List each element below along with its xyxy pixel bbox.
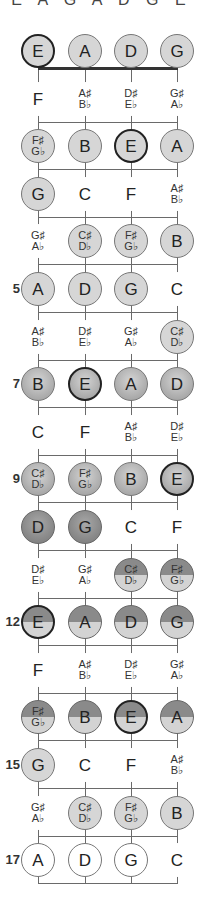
note-marker: G♯A♭: [21, 224, 55, 258]
fret-line: [38, 550, 178, 551]
note-label: A: [125, 376, 136, 393]
note-flat-label: G♭: [31, 146, 45, 157]
note-label: C: [79, 757, 91, 774]
note-label: G: [170, 614, 183, 631]
fret-line: [38, 217, 178, 218]
note-marker: D♯E♭: [68, 320, 102, 354]
note-flat-label: B♭: [79, 670, 91, 681]
note-marker: B: [68, 129, 102, 163]
note-marker: A♯B♭: [21, 320, 55, 354]
fret-line: [38, 169, 178, 170]
note-marker: D: [114, 34, 148, 68]
fret-line: [38, 407, 178, 408]
note-flat-label: G♭: [170, 575, 184, 586]
note-flat-label: E♭: [125, 99, 137, 110]
note-marker: G♯A♭: [160, 653, 194, 687]
note-label: A: [32, 852, 43, 869]
note-marker: A: [114, 367, 148, 401]
note-marker: D: [114, 605, 148, 639]
note-flat-label: A♭: [32, 813, 44, 824]
note-label: E: [32, 43, 43, 60]
note-marker: G: [21, 177, 55, 211]
fret-line: [38, 598, 178, 599]
note-marker: F: [21, 82, 55, 116]
note-marker: G: [21, 748, 55, 782]
note-flat-label: D♭: [79, 813, 92, 824]
note-marker: A♯B♭: [160, 177, 194, 211]
note-marker: E: [68, 367, 102, 401]
note-marker: A♯B♭: [114, 415, 148, 449]
note-marker: E: [21, 34, 55, 68]
note-flat-label: A♭: [171, 670, 183, 681]
note-flat-label: E♭: [171, 432, 183, 443]
note-marker: C: [21, 415, 55, 449]
note-label: C: [171, 281, 183, 298]
fret-line: [38, 693, 178, 694]
note-label: D: [125, 614, 137, 631]
note-marker: B: [68, 700, 102, 734]
note-label: F: [33, 662, 43, 679]
fret-line: [38, 645, 178, 646]
note-label: G: [31, 757, 44, 774]
note-label: F: [126, 757, 136, 774]
note-marker: G: [114, 272, 148, 306]
note-label: G: [31, 186, 44, 203]
note-marker: G♯A♭: [68, 558, 102, 592]
note-marker: D: [160, 367, 194, 401]
note-marker: G♯A♭: [114, 320, 148, 354]
note-marker: C♯D♭: [68, 224, 102, 258]
note-marker: A: [160, 129, 194, 163]
fret-line: [38, 360, 178, 361]
note-flat-label: A♭: [171, 99, 183, 110]
note-marker: G: [160, 605, 194, 639]
note-flat-label: E♭: [32, 575, 44, 586]
fret-line: [38, 788, 178, 789]
note-flat-label: G♭: [124, 813, 138, 824]
note-label: B: [79, 138, 90, 155]
note-marker: C♯D♭: [21, 462, 55, 496]
note-marker: F: [160, 510, 194, 544]
fret-number: 7: [13, 376, 20, 391]
fret-line: [38, 502, 178, 503]
note-flat-label: D♭: [171, 337, 184, 348]
note-marker: F: [68, 415, 102, 449]
note-marker: D: [68, 272, 102, 306]
note-marker: D♯E♭: [21, 558, 55, 592]
fret-line: [38, 883, 178, 884]
note-label: C: [171, 852, 183, 869]
note-flat-label: E♭: [79, 337, 91, 348]
note-marker: F♯G♭: [114, 224, 148, 258]
note-marker: C: [160, 272, 194, 306]
note-flat-label: B♭: [171, 194, 183, 205]
note-flat-label: B♭: [79, 99, 91, 110]
fret-line: [38, 264, 178, 265]
note-label: C: [79, 186, 91, 203]
note-label: C: [125, 519, 137, 536]
note-label: B: [125, 471, 136, 488]
note-flat-label: A♭: [32, 241, 44, 252]
note-marker: E: [21, 605, 55, 639]
note-marker: A♯B♭: [68, 653, 102, 687]
note-marker: B: [160, 224, 194, 258]
note-marker: F♯G♭: [114, 796, 148, 830]
note-marker: A: [21, 272, 55, 306]
note-flat-label: D♭: [32, 479, 45, 490]
note-label: B: [171, 233, 182, 250]
note-marker: A: [21, 843, 55, 877]
note-flat-label: A♭: [79, 575, 91, 586]
note-marker: A♯B♭: [68, 82, 102, 116]
note-label: D: [32, 519, 44, 536]
note-marker: B: [21, 367, 55, 401]
note-label: G: [124, 281, 137, 298]
note-marker: G♯A♭: [21, 796, 55, 830]
note-label: D: [79, 852, 91, 869]
note-label: D: [125, 43, 137, 60]
fret-number: 9: [13, 471, 20, 486]
note-marker: E: [160, 462, 194, 496]
note-marker: F: [114, 177, 148, 211]
note-flat-label: E♭: [125, 670, 137, 681]
note-label: C: [32, 424, 44, 441]
note-label: E: [171, 471, 182, 488]
note-marker: A: [68, 34, 102, 68]
note-flat-label: B♭: [171, 765, 183, 776]
